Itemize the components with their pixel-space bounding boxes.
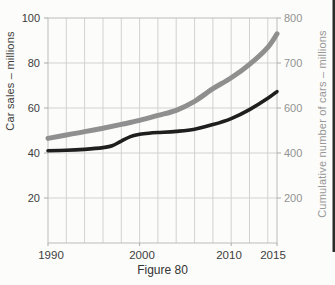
chart-canvas: [0, 0, 335, 285]
left-axis-tick-label: 60: [28, 102, 40, 115]
figure-80-chart: Car sales – millions Cumulative number o…: [0, 0, 335, 285]
left-axis-title: Car sales – millions: [4, 10, 16, 152]
left-axis-tick-label: 40: [28, 147, 40, 160]
x-axis-tick-label: 1990: [38, 249, 64, 262]
right-axis-tick-label: 600: [284, 102, 302, 115]
x-axis-tick-label: 2015: [260, 249, 286, 262]
left-axis-tick-label: 20: [28, 192, 40, 205]
x-axis-tick-label: 2010: [216, 249, 242, 262]
right-axis-tick-label: 700: [284, 57, 302, 70]
car-sales-curve: [48, 92, 277, 151]
figure-caption: Figure 80: [48, 263, 277, 277]
right-axis-tick-label: 800: [284, 12, 302, 25]
left-axis-tick-label: 80: [28, 57, 40, 70]
left-axis-tick-label: 100: [22, 12, 40, 25]
right-axis-tick-label: 200: [284, 192, 302, 205]
right-axis-tick-label: 400: [284, 147, 302, 160]
x-axis-tick-label: 2000: [129, 249, 155, 262]
right-axis-title: Cumulative number of cars – millions: [316, 15, 328, 233]
cumulative-cars-curve: [48, 34, 277, 139]
